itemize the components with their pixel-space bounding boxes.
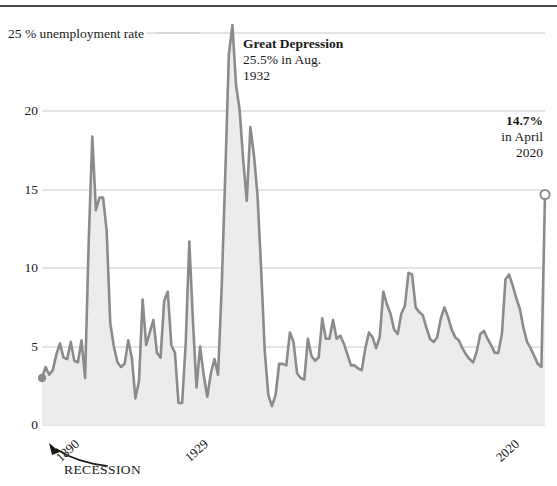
y-axis-tick-0: 0 [10,418,38,432]
series-start-dot [38,374,46,382]
series-end-circle [540,190,549,199]
y-axis-tick-15: 15 [10,183,38,197]
annotation-april-2020-line2: in April [501,129,543,145]
annotation-april-2020: 14.7% in April 2020 [501,113,543,161]
y-axis-tick-20: 20 [10,104,38,118]
annotation-april-2020-line3: 2020 [501,145,543,161]
annotation-great-depression-heading: Great Depression [243,36,343,52]
annotation-great-depression-line2: 25.5% in Aug. [243,52,343,68]
y-axis-tick-10: 10 [10,261,38,275]
y-axis-tick-25: 25 % unemployment rate [8,27,144,41]
y-axis-tick-5: 5 [10,340,38,354]
chart-root: 25 % unemployment rate 20 15 10 5 0 1890… [0,0,557,486]
series-area-fill [42,25,545,425]
annotation-april-2020-heading: 14.7% [501,113,543,129]
annotation-recession-label: RECESSION [64,462,141,478]
annotation-great-depression-line3: 1932 [243,68,343,84]
annotation-great-depression: Great Depression 25.5% in Aug. 1932 [243,36,343,84]
